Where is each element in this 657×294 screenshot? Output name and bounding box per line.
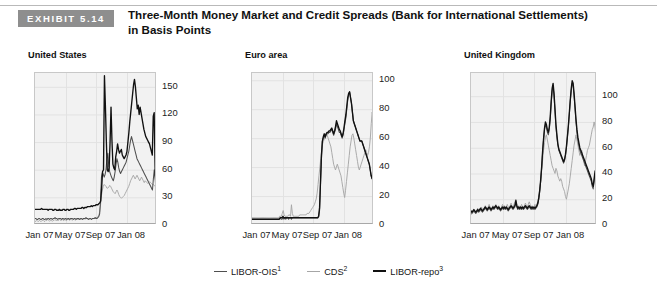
y-axis-tick-label: 20 bbox=[379, 189, 389, 200]
legend-label: CDS2 bbox=[324, 265, 347, 277]
exhibit-title-line1: Three-Month Money Market and Credit Spre… bbox=[128, 8, 653, 23]
legend-footnote-marker: 2 bbox=[344, 265, 348, 272]
panel-title: United Kingdom bbox=[464, 50, 535, 60]
chart-panel-euro-area: Euro area020406080100Jan 07May 07Sep 07J… bbox=[215, 50, 430, 250]
exhibit-badge: EXHIBIT 5.14 bbox=[18, 10, 114, 27]
legend-item-cds: CDS2 bbox=[307, 265, 347, 277]
y-axis-tick-label: 0 bbox=[162, 218, 167, 229]
top-divider bbox=[0, 5, 657, 6]
y-axis-tick-label: 0 bbox=[379, 218, 384, 229]
chart-panel-united-states: United States0306090120150Jan 07May 07Se… bbox=[0, 50, 215, 250]
y-axis-tick-label: 100 bbox=[602, 89, 618, 100]
y-axis-tick-label: 60 bbox=[379, 131, 389, 142]
y-axis-tick-label: 100 bbox=[379, 73, 395, 84]
y-axis-tick-label: 30 bbox=[162, 190, 172, 201]
legend-swatch-line-icon bbox=[214, 271, 227, 272]
y-axis-tick-label: 60 bbox=[602, 141, 612, 152]
x-axis-tick-label: Jan 08 bbox=[111, 229, 151, 240]
legend-footnote-marker: 1 bbox=[277, 265, 281, 272]
panel-title: Euro area bbox=[245, 50, 287, 60]
legend-label: LIBOR-OIS1 bbox=[231, 265, 281, 277]
legend-item-libor-repo: LIBOR-repo3 bbox=[373, 265, 443, 277]
plot-area bbox=[470, 72, 596, 224]
legend-swatch-line-icon bbox=[373, 270, 386, 272]
chart-panel-united-kingdom: United Kingdom020406080100Jan 07May 07Se… bbox=[428, 50, 657, 250]
chart-legend: LIBOR-OIS1CDS2LIBOR-repo3 bbox=[0, 262, 657, 280]
legend-swatch-line-icon bbox=[307, 271, 320, 272]
y-axis-tick-label: 150 bbox=[162, 80, 178, 91]
legend-footnote-marker: 3 bbox=[439, 265, 443, 272]
plot-area bbox=[251, 72, 373, 224]
legend-label: LIBOR-repo3 bbox=[390, 265, 443, 277]
legend-item-libor-ois: LIBOR-OIS1 bbox=[214, 265, 281, 277]
exhibit-header: EXHIBIT 5.14 Three-Month Money Market an… bbox=[0, 10, 657, 50]
x-axis-tick-label: Jan 08 bbox=[328, 229, 368, 240]
y-axis-tick-label: 80 bbox=[379, 102, 389, 113]
exhibit-title: Three-Month Money Market and Credit Spre… bbox=[128, 8, 653, 37]
y-axis-tick-label: 40 bbox=[379, 160, 389, 171]
y-axis-tick-label: 90 bbox=[162, 135, 172, 146]
y-axis-tick-label: 60 bbox=[162, 163, 172, 174]
exhibit-title-line2: in Basis Points bbox=[128, 23, 653, 38]
y-axis-tick-label: 0 bbox=[602, 218, 607, 229]
plot-area bbox=[34, 72, 156, 224]
y-axis-tick-label: 120 bbox=[162, 107, 178, 118]
y-axis-tick-label: 40 bbox=[602, 166, 612, 177]
y-axis-tick-label: 20 bbox=[602, 192, 612, 203]
x-axis-tick-label: Jan 08 bbox=[550, 229, 590, 240]
y-axis-tick-label: 80 bbox=[602, 115, 612, 126]
panel-title: United States bbox=[28, 50, 87, 60]
